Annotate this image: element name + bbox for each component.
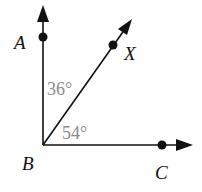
label-a: A [12,32,26,53]
angle-diagram: A X B C 36° 54° [0,0,202,192]
arrowhead-diagonal-icon [118,19,132,35]
label-b: B [22,153,34,174]
point-a-dot [39,33,48,42]
label-c: C [155,162,168,183]
point-c-dot [158,141,167,150]
angle-label-xbc: 54° [62,123,87,143]
ray-ba [37,5,49,145]
label-x: X [123,43,137,64]
angle-label-abx: 36° [47,79,72,99]
point-x-dot [109,41,118,50]
arrowhead-right-icon [176,139,193,151]
arrowhead-up-icon [37,5,49,22]
